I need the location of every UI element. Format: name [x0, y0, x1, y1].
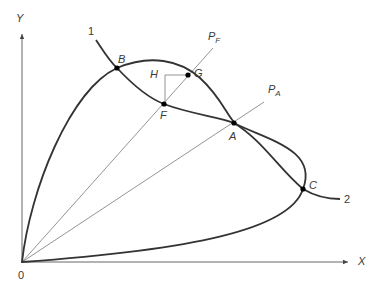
- point-a-label: A: [229, 131, 236, 142]
- y-axis-label: Y: [16, 13, 23, 24]
- pf-label: PF: [208, 31, 220, 45]
- point-g: [185, 72, 190, 77]
- lens-curve: [22, 60, 306, 262]
- point-g-label: G: [194, 68, 203, 79]
- pa-label: PA: [268, 84, 281, 98]
- point-b: [114, 65, 119, 70]
- curve-2-label: 2: [344, 194, 350, 205]
- point-b-label: B: [118, 54, 125, 65]
- point-h-label: H: [150, 69, 158, 80]
- pa-sub: A: [275, 89, 280, 98]
- curve-1-2: [96, 40, 340, 199]
- x-axis-label: X: [358, 256, 365, 267]
- point-f-label: F: [160, 110, 167, 121]
- point-f: [161, 101, 166, 106]
- origin-label: 0: [18, 270, 24, 281]
- diagram-canvas: [0, 0, 381, 288]
- curve-1-label: 1: [88, 26, 94, 37]
- pf-sub: F: [215, 36, 220, 45]
- point-c: [300, 186, 305, 191]
- point-a: [231, 120, 236, 125]
- point-c-label: C: [309, 180, 317, 191]
